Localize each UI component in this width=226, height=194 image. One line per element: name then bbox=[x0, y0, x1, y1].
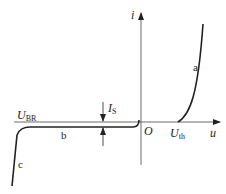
origin-label: O bbox=[144, 124, 153, 138]
ubr-label: UBR bbox=[17, 108, 37, 123]
region-a-label: a bbox=[193, 61, 198, 73]
region-b-label: b bbox=[61, 129, 67, 141]
breakdown-curve-c bbox=[12, 135, 17, 186]
forward-curve-a bbox=[178, 24, 203, 122]
region-c-label: c bbox=[18, 158, 23, 170]
uth-label: Uth bbox=[170, 126, 185, 141]
x-axis-label: u bbox=[210, 126, 216, 140]
is-label: IS bbox=[107, 101, 116, 116]
y-axis-label: i bbox=[131, 8, 134, 22]
diode-iv-diagram: i u O UBR Uth IS a b c bbox=[0, 0, 226, 194]
